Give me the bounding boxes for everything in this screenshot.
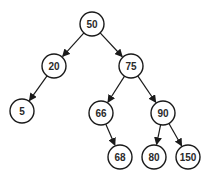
- edge-arrow-n90-to-n150: [169, 123, 182, 145]
- tree-node-80: 80: [142, 145, 166, 169]
- node-label: 90: [157, 108, 169, 119]
- node-label: 20: [48, 61, 60, 72]
- tree-nodes: 502075566906880150: [10, 12, 200, 169]
- binary-tree-diagram: 502075566906880150: [0, 0, 208, 179]
- edge-arrow-n75-to-n66: [108, 76, 125, 102]
- node-label: 80: [148, 152, 160, 163]
- edge-arrow-n90-to-n80: [157, 125, 161, 145]
- edge-arrow-n50-to-n75: [100, 33, 122, 57]
- tree-node-20: 20: [42, 54, 66, 78]
- node-label: 50: [86, 19, 98, 30]
- node-label: 68: [114, 152, 126, 163]
- tree-node-66: 66: [89, 101, 113, 125]
- node-label: 75: [125, 61, 137, 72]
- edge-arrow-n66-to-n68: [106, 124, 115, 145]
- edge-arrow-n20-to-n5: [30, 76, 48, 101]
- tree-edges: [30, 33, 182, 146]
- tree-node-150: 150: [176, 145, 200, 169]
- edge-arrow-n50-to-n20: [63, 33, 84, 56]
- tree-node-75: 75: [119, 54, 143, 78]
- tree-node-90: 90: [151, 101, 175, 125]
- tree-node-5: 5: [10, 99, 34, 123]
- tree-node-68: 68: [108, 145, 132, 169]
- node-label: 5: [19, 106, 25, 117]
- node-label: 150: [180, 152, 197, 163]
- edge-arrow-n75-to-n90: [138, 76, 156, 102]
- tree-node-50: 50: [80, 12, 104, 36]
- node-label: 66: [95, 108, 107, 119]
